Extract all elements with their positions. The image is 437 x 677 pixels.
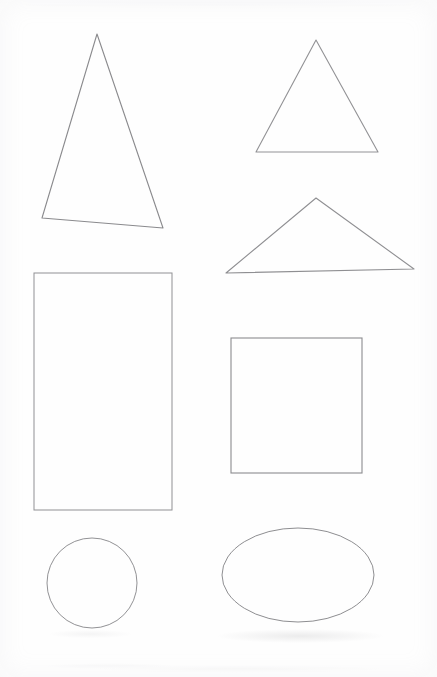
- page-background: [0, 0, 437, 677]
- shapes-page: Geometric Shapes Line Drawing: [0, 0, 437, 677]
- shape-canvas: [0, 0, 437, 677]
